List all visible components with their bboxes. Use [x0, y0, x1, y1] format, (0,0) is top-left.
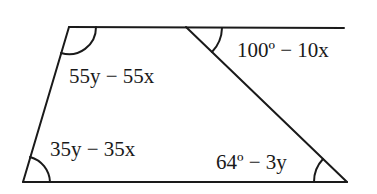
diagram-lines	[0, 0, 377, 194]
angle-label-top-left: 55y − 55x	[69, 66, 154, 87]
top-line	[69, 27, 344, 28]
angle-arc-bottom-right	[314, 159, 323, 182]
angle-arc-top-exterior	[212, 28, 222, 52]
angle-label-top-exterior: 100º − 10x	[237, 40, 329, 61]
angle-label-bottom-right: 64º − 3y	[216, 152, 287, 173]
angle-arc-top-left	[61, 27, 96, 54]
trapezoid-diagram: 55y − 55x 100º − 10x 35y − 35x 64º − 3y	[0, 0, 377, 194]
angle-arc-bottom-left	[30, 157, 50, 182]
angle-label-bottom-left: 35y − 35x	[50, 139, 135, 160]
